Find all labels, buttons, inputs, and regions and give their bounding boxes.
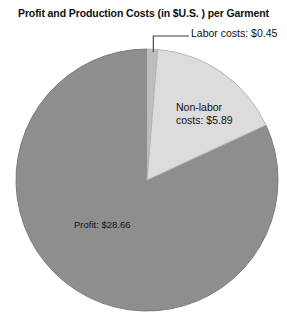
pie-chart-figure: Profit and Production Costs (in $U.S. ) …	[0, 0, 287, 328]
pie-chart-graphic	[0, 0, 287, 328]
non-labor-costs-label-line1: Non-labor	[176, 101, 222, 113]
labor-costs-label: Labor costs: $0.45	[191, 27, 277, 40]
profit-label-text: Profit: $28.66	[74, 219, 131, 230]
non-labor-costs-label: Non-labor costs: $5.89	[176, 101, 233, 126]
labor-costs-label-text: Labor costs: $0.45	[191, 27, 277, 39]
non-labor-costs-label-line2: costs: $5.89	[176, 114, 233, 127]
profit-label: Profit: $28.66	[74, 219, 131, 232]
